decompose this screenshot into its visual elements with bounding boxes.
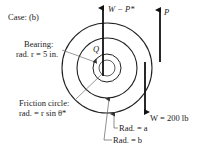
diagram-graphic — [0, 0, 206, 155]
rad-b-label: Rad. = b — [113, 135, 142, 145]
force-w-minus-p-label: W − P* — [108, 4, 135, 14]
force-w-label: W = 200 lb — [150, 113, 188, 123]
force-p-label: P — [164, 7, 169, 17]
rad-b-leader — [104, 99, 112, 140]
rad-a-label: Rad. = a — [119, 123, 148, 133]
friction-label-line1: Friction circle: — [19, 98, 69, 108]
bearing-label-line1: Bearing: — [24, 39, 53, 49]
friction-label-line2: rad. = r sin θ* — [19, 108, 66, 118]
bearing-friction-diagram: Case: (b) Bearing: rad. r = 5 in. Fricti… — [0, 0, 206, 155]
case-label: Case: (b) — [8, 12, 39, 22]
friction-leader — [76, 74, 102, 99]
rad-a-leader — [114, 114, 118, 128]
point-q-label: Q — [93, 44, 99, 54]
bearing-circle — [93, 54, 121, 82]
radius-a-circle — [62, 23, 152, 113]
bearing-label-line2: rad. r = 5 in. — [16, 49, 58, 59]
friction-circle — [99, 60, 115, 76]
